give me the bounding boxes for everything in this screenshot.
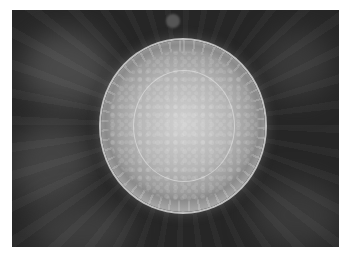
microscopy-photo	[12, 10, 339, 247]
small-particle	[166, 14, 180, 28]
inner-ring	[133, 70, 235, 182]
specimen-disc	[101, 40, 265, 212]
